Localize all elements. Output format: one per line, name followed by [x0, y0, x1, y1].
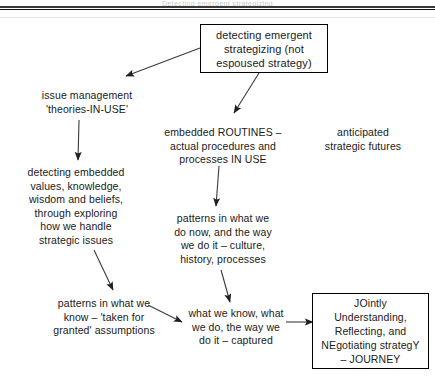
node-patterns-in-what-we-do-now: patterns in what we do now, and the way … — [156, 212, 290, 266]
header-rule-thin — [0, 9, 435, 10]
node-journey[interactable]: JOintly Understanding, Reflecting, and N… — [312, 293, 429, 369]
node-anticipated-strategic-futures: anticipated strategic futures — [298, 126, 428, 153]
connector-routines-to-patterns-now — [216, 166, 219, 206]
connector-issue-to-detecting-embedded — [78, 120, 79, 160]
connector-top-to-issue-management — [126, 48, 200, 76]
node-patterns-in-what-we-know: patterns in what we know – 'taken for gr… — [36, 297, 172, 338]
header-rule-thick — [0, 6, 435, 8]
node-detecting-emergent-strategizing[interactable]: detecting emergent strategizing (not esp… — [200, 24, 328, 73]
node-detecting-embedded-values: detecting embedded values, knowledge, wi… — [2, 166, 150, 247]
node-what-we-know-what-we-do: what we know, what we do, the way we do … — [174, 307, 298, 348]
header-rule-faint — [0, 17, 435, 18]
node-embedded-routines: embedded ROUTINES – actual procedures an… — [156, 126, 290, 167]
diagram-canvas: Detecting emergent strategizing detectin… — [0, 0, 435, 385]
connector-patterns-now-to-what-we-know — [221, 270, 230, 302]
node-issue-management: issue management 'theories-IN-USE' — [22, 89, 152, 116]
connector-top-to-embedded-routines — [234, 73, 259, 113]
connector-detecting-to-patterns-know — [94, 250, 113, 290]
